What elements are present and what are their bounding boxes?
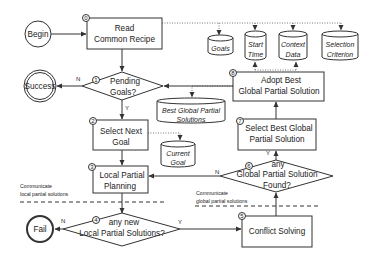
global-communication-label-1: Communicate: [196, 190, 228, 196]
step-local-partial-planning[interactable]: Local Partial Planning 3: [89, 164, 149, 194]
datastore-label: Criterion: [327, 51, 354, 58]
step-conflict-solving[interactable]: Conflict Solving 5: [239, 213, 313, 248]
step-label: Select Next: [100, 127, 143, 136]
step-label: Read: [115, 24, 135, 33]
decision-any-global-partial-solution-found[interactable]: any Global Partial Solution Found? 6: [220, 160, 333, 192]
branch-no-label: N: [61, 218, 65, 224]
step-label: Planning: [104, 182, 136, 191]
datastore-goals[interactable]: Goals: [208, 35, 233, 55]
branch-yes-label: Y: [266, 150, 270, 156]
datastore-label: Context: [281, 41, 306, 48]
datastore-label: Solutions: [177, 116, 206, 123]
datastore-current-goal[interactable]: Current Goal: [161, 141, 195, 167]
step-select-best-global-partial-solution[interactable]: Select Best Global Partial Solution 7: [237, 118, 317, 151]
branch-no-label: N: [76, 76, 80, 82]
datastore-label: Time: [248, 51, 264, 58]
datastore-label: Current: [166, 150, 190, 157]
decision-pending-goals[interactable]: Pending Goals? 1: [82, 72, 163, 100]
datastore-context-data[interactable]: Context Data: [279, 31, 307, 60]
decision-label: Found?: [263, 181, 291, 190]
step-select-next-goal[interactable]: Select Next Goal 2: [90, 118, 149, 151]
fail-terminal[interactable]: Fail: [27, 216, 53, 242]
global-communication-label-2: global partial solutions: [196, 198, 248, 204]
flowchart-canvas: Communicate local partial solutions Comm…: [0, 0, 373, 261]
decision-label: Global Partial Solution: [236, 170, 317, 179]
decision-any-new-local-partial-solutions[interactable]: any new Local Partial Solutions? 4: [63, 213, 180, 246]
step-label: Partial Solution: [249, 135, 305, 144]
local-communication-label-2: local partial solutions: [20, 191, 69, 197]
step-label: Select Best Global: [245, 124, 313, 133]
step-label: Goal: [112, 138, 129, 147]
step-label: Conflict Solving: [249, 227, 306, 236]
local-communication-label-1: Communicate: [20, 183, 52, 189]
datastore-label: Data: [286, 51, 301, 58]
step-label: Global Partial Solution: [238, 87, 319, 96]
decision-label: Local Partial Solutions?: [79, 229, 165, 238]
step-adopt-best-global-partial-solution[interactable]: Adopt Best Global Partial Solution 8: [230, 70, 325, 102]
decision-label: any: [271, 160, 285, 169]
success-terminal[interactable]: Success: [24, 70, 56, 102]
decision-label: any new: [109, 218, 140, 227]
step-label: Common Recipe: [94, 35, 155, 44]
fail-label: Fail: [33, 225, 46, 234]
datastore-label: Start: [248, 41, 264, 48]
begin-label: Begin: [28, 30, 49, 39]
branch-no-label: N: [215, 169, 219, 175]
datastore-label: Selection: [326, 41, 355, 48]
decision-label: Pending: [110, 77, 140, 86]
step-label: Local Partial: [99, 171, 144, 180]
success-label: Success: [25, 82, 56, 91]
step-label: Adopt Best: [261, 76, 302, 85]
datastore-label: Goals: [211, 45, 230, 52]
datastore-start-time[interactable]: Start Time: [245, 31, 266, 60]
datastore-label: Best Global Partial: [162, 107, 220, 114]
datastore-best-global-partial-solutions[interactable]: Best Global Partial Solutions: [157, 98, 225, 123]
datastore-label: Goal: [171, 159, 186, 166]
datastore-selection-criterion[interactable]: Selection Criterion: [322, 31, 358, 60]
step-read-common-recipe[interactable]: Read Common Recipe 0: [83, 15, 163, 50]
begin-terminal[interactable]: Begin: [25, 21, 51, 47]
decision-label: Goals?: [110, 88, 136, 97]
branch-yes-label: Y: [125, 105, 129, 111]
branch-yes-label: Y: [178, 219, 182, 225]
